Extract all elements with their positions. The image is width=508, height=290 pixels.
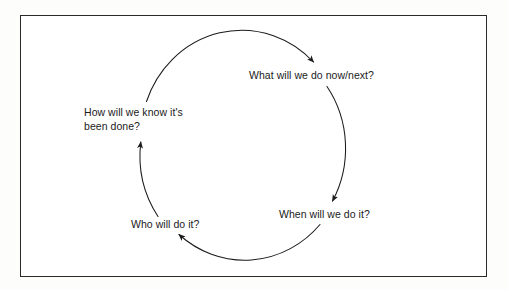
node-label-who: Who will do it? (131, 218, 199, 232)
arrow-when-to-who (179, 225, 320, 261)
node-label-what: What will we do now/next? (249, 69, 374, 83)
figure-root: What will we do now/next? When will we d… (0, 0, 508, 290)
arrow-who-to-how (140, 142, 158, 217)
arrow-how-to-what (147, 30, 314, 101)
node-label-how: How will we know it's been done? (84, 106, 183, 133)
node-label-when: When will we do it? (279, 208, 370, 222)
cycle-diagram-graphic (0, 0, 508, 290)
arrow-what-to-when (327, 87, 346, 202)
